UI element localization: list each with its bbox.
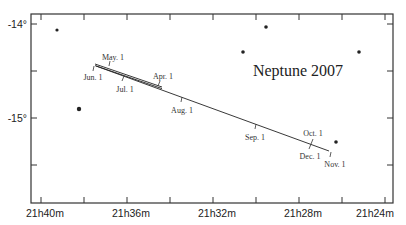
y-tick-label-14: -14° — [8, 18, 27, 30]
x-tick-label-21h40m: 21h40m — [26, 207, 64, 219]
date-label-aug: Aug. 1 — [171, 106, 193, 115]
y-ticks-right — [387, 24, 393, 165]
x-tick-label-21h24m: 21h24m — [356, 207, 394, 219]
star — [357, 50, 361, 54]
chart-title: Neptune 2007 — [253, 62, 343, 80]
neptune-path-chart: -14° -15° 21h40m 21h36m 21h32m 21h28m 21… — [0, 0, 406, 225]
star — [241, 50, 245, 54]
date-label-may: May. 1 — [102, 53, 124, 62]
date-label-jul: Jul. 1 — [116, 85, 133, 94]
date-label-oct: Oct. 1 — [303, 129, 323, 138]
background-stars — [55, 25, 360, 144]
y-tick-label-15: -15° — [8, 112, 27, 124]
date-label-sep: Sep. 1 — [245, 133, 265, 142]
x-tick-label-21h36m: 21h36m — [112, 207, 150, 219]
x-tick-label-21h28m: 21h28m — [284, 207, 322, 219]
star — [55, 28, 58, 31]
date-label-nov: Nov. 1 — [324, 160, 345, 169]
x-ticks-bottom — [41, 197, 385, 203]
date-label-jun: Jun. 1 — [83, 73, 102, 82]
date-label-dec: Dec. 1 — [300, 152, 321, 161]
y-ticks-left — [31, 24, 37, 165]
star — [264, 25, 268, 29]
x-ticks-top — [41, 14, 385, 20]
star — [334, 140, 338, 144]
x-tick-label-21h32m: 21h32m — [198, 207, 236, 219]
star — [77, 107, 81, 111]
date-label-apr: Apr. 1 — [153, 72, 173, 81]
